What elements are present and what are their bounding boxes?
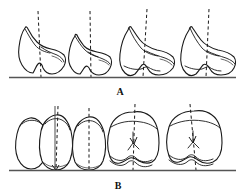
- tooth-outline-figure: A: [0, 0, 243, 193]
- panel-b: B: [9, 104, 236, 191]
- specimen-a4: [181, 9, 236, 77]
- panel-a-label: A: [116, 86, 124, 97]
- specimen-a1: [19, 11, 66, 77]
- specimen-b2: [40, 106, 73, 170]
- specimen-a3: [120, 9, 175, 77]
- specimen-b4: [108, 104, 159, 170]
- specimen-a2: [69, 11, 112, 77]
- panel-a: A: [9, 9, 236, 97]
- panel-b-label: B: [115, 180, 122, 191]
- figure-container: A: [0, 0, 243, 193]
- specimen-b3: [73, 108, 106, 170]
- specimen-b2-outline: [40, 115, 73, 170]
- specimen-b5: [167, 104, 222, 170]
